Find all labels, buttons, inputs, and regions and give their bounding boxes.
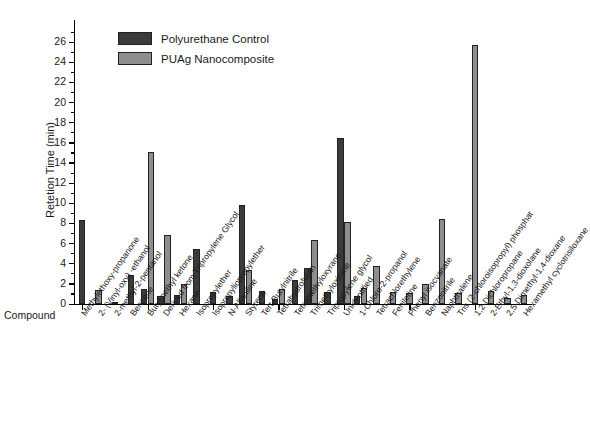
legend-item: Polyurethane Control <box>118 30 274 47</box>
chart-legend: Polyurethane ControlPUAg Nanocomposite <box>118 30 274 70</box>
legend-label: PUAg Nanocomposite <box>161 53 274 65</box>
legend-swatch <box>118 32 152 45</box>
legend-item: PUAg Nanocomposite <box>118 50 274 67</box>
legend-swatch <box>118 52 152 65</box>
legend-label: Polyurethane Control <box>161 33 269 45</box>
